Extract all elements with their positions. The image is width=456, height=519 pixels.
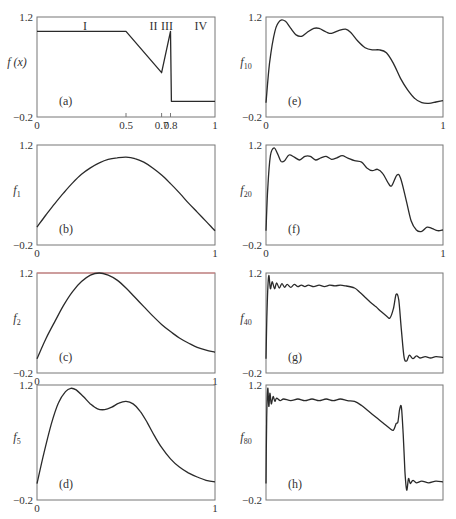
y-axis-label: f2 (13, 311, 20, 327)
panel-c: 1.2−0.2f201(c) (13, 267, 218, 387)
y-tick-label-bottom: −0.2 (242, 367, 262, 379)
x-tick-label: 0 (34, 247, 40, 259)
y-tick-label-top: 1.2 (248, 11, 262, 23)
region-label: II (150, 19, 158, 33)
panel-label: (b) (59, 222, 73, 236)
x-tick-label: 0.5 (119, 119, 133, 131)
x-tick-label: 0 (263, 247, 269, 259)
panel-a: 1.2−0.2f (x)00.50.70.81IIIIIIIV(a) (7, 11, 218, 131)
y-axis-label: f40 (240, 311, 251, 327)
region-label: IV (194, 19, 207, 33)
panel-d: 1.2−0.2f501(d) (13, 379, 218, 514)
y-tick-label-top: 1.2 (248, 379, 262, 391)
data-curve (266, 388, 443, 490)
y-axis-label: f10 (240, 55, 251, 71)
panel-label: (d) (59, 477, 73, 491)
x-tick-label: 1 (212, 119, 218, 131)
panel-e: 1.2−0.2f1001(e) (240, 11, 445, 131)
figure: 1.2−0.2f (x)00.50.70.81IIIIIIIV(a)1.2−0.… (0, 0, 456, 519)
data-curve (37, 31, 215, 101)
x-tick-label: 1 (212, 502, 218, 514)
panel-label: (f) (288, 222, 300, 236)
panel-label: (h) (288, 477, 302, 491)
y-tick-label-top: 1.2 (19, 11, 33, 23)
y-axis-label: f80 (240, 430, 251, 446)
data-curve (37, 388, 215, 483)
x-tick-label: 1 (440, 247, 446, 259)
data-curve (37, 157, 215, 231)
panel-label: (c) (59, 350, 72, 364)
y-tick-label-top: 1.2 (19, 267, 33, 279)
y-axis-label: f (x) (7, 55, 27, 69)
y-axis-label: f5 (13, 430, 20, 446)
data-curve (266, 148, 443, 232)
y-axis-label: f20 (240, 183, 251, 199)
y-tick-label-bottom: −0.2 (13, 494, 33, 506)
x-tick-label: 1 (212, 247, 218, 259)
region-label: III (161, 19, 173, 33)
y-tick-label-bottom: −0.2 (13, 367, 33, 379)
y-tick-label-bottom: −0.2 (242, 111, 262, 123)
panel-f: 1.2−0.2f2001(f) (240, 139, 445, 259)
data-curve (37, 273, 215, 359)
panel-h: 1.2−0.2f80(h) (240, 379, 443, 506)
x-tick-label: 0 (34, 119, 40, 131)
data-curve (266, 20, 443, 104)
x-tick-label: 0.8 (164, 119, 178, 131)
y-tick-label-top: 1.2 (248, 267, 262, 279)
panel-label: (e) (288, 94, 301, 108)
panel-g: 1.2−0.2f40(g) (240, 267, 443, 379)
y-tick-label-bottom: −0.2 (242, 494, 262, 506)
x-tick-label: 0 (263, 119, 269, 131)
y-tick-label-top: 1.2 (19, 139, 33, 151)
x-tick-label: 1 (440, 119, 446, 131)
x-tick-label: 0 (34, 502, 40, 514)
panel-label: (a) (59, 94, 72, 108)
panel-label: (g) (288, 350, 302, 364)
y-tick-label-bottom: −0.2 (13, 111, 33, 123)
y-tick-label-top: 1.2 (248, 139, 262, 151)
y-tick-label-top: 1.2 (19, 379, 33, 391)
y-axis-label: f1 (13, 183, 20, 199)
y-tick-label-bottom: −0.2 (242, 239, 262, 251)
panel-b: 1.2−0.2f101(b) (13, 139, 218, 259)
data-curve (266, 275, 443, 361)
y-tick-label-bottom: −0.2 (13, 239, 33, 251)
